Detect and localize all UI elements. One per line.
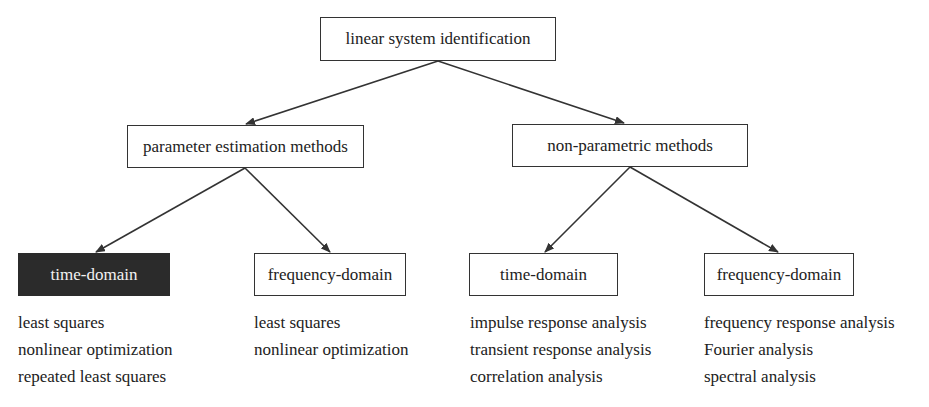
category-label: parameter estimation methods <box>143 137 348 157</box>
root-node: linear system identification <box>320 17 556 61</box>
method-item: nonlinear optimization <box>254 336 408 363</box>
arrow-root-to-nonparam <box>438 61 624 123</box>
method-item: repeated least squares <box>18 363 172 390</box>
root-label: linear system identification <box>345 29 530 49</box>
arrow-param-to-time <box>96 168 245 252</box>
method-item: Fourier analysis <box>704 336 895 363</box>
leaf-label: time-domain <box>500 265 587 285</box>
method-item: transient response analysis <box>470 336 651 363</box>
category-node-nonparametric: non-parametric methods <box>512 124 748 167</box>
arrow-nonparam-to-freq <box>630 167 778 252</box>
leaf-node-nonparam-time-domain: time-domain <box>469 253 618 296</box>
method-list-param-freq: least squares nonlinear optimization <box>254 309 408 363</box>
method-item: correlation analysis <box>470 363 651 390</box>
category-node-parametric: parameter estimation methods <box>127 125 364 168</box>
method-list-param-time: least squares nonlinear optimization rep… <box>18 309 172 390</box>
leaf-node-param-frequency-domain: frequency-domain <box>254 253 406 296</box>
method-list-nonparam-time: impulse response analysis transient resp… <box>470 309 651 390</box>
method-item: least squares <box>18 309 172 336</box>
leaf-node-param-time-domain: time-domain <box>18 253 170 296</box>
method-item: frequency response analysis <box>704 309 895 336</box>
arrow-param-to-freq <box>245 168 330 252</box>
leaf-label: time-domain <box>51 265 138 285</box>
leaf-node-nonparam-frequency-domain: frequency-domain <box>704 253 854 296</box>
method-item: impulse response analysis <box>470 309 651 336</box>
method-item: spectral analysis <box>704 363 895 390</box>
method-item: least squares <box>254 309 408 336</box>
arrow-nonparam-to-time <box>545 167 630 252</box>
leaf-label: frequency-domain <box>268 265 393 285</box>
arrow-root-to-param <box>246 61 438 124</box>
method-list-nonparam-freq: frequency response analysis Fourier anal… <box>704 309 895 390</box>
category-label: non-parametric methods <box>547 136 713 156</box>
method-item: nonlinear optimization <box>18 336 172 363</box>
leaf-label: frequency-domain <box>717 265 842 285</box>
